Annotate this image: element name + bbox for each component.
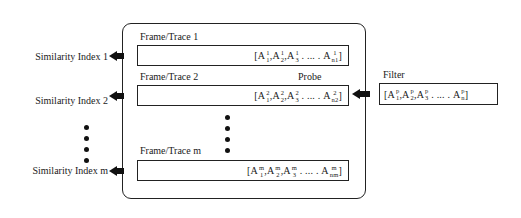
dots: . ... . — [300, 165, 319, 176]
term-a: A — [388, 89, 395, 100]
filter-sequence: [ Ap1 , Ap2 , Ap3 . ... . Apn ] — [384, 84, 468, 104]
bracket-close: ] — [338, 90, 342, 101]
sub: 3 — [425, 94, 428, 101]
sequence-2: [ A21 , A22 , A23 . ... . A2n2 ] — [254, 86, 342, 105]
similarity-index-2: Similarity Index 2 — [18, 95, 108, 106]
sup: 2 — [332, 89, 339, 96]
similarity-ellipsis — [84, 125, 89, 163]
probe-label: Probe — [298, 71, 321, 82]
dot-icon — [225, 137, 230, 142]
dots: . ... . — [431, 89, 450, 100]
similarity-index-m: Similarity Index m — [18, 165, 108, 176]
dots: . ... . — [302, 90, 321, 101]
dot-icon — [84, 158, 89, 163]
dot-icon — [225, 126, 230, 131]
frame-label-1: Frame/Trace 1 — [140, 31, 198, 42]
sub: 3 — [295, 96, 298, 103]
dot-icon — [84, 147, 89, 152]
sub: 3 — [292, 171, 297, 178]
frame-row-1: [ A11 , A12 , A13 . ... . A1n1 ] — [137, 45, 349, 66]
sup: m — [330, 164, 339, 171]
dots: . ... . — [302, 50, 321, 61]
bracket-close: ] — [338, 165, 342, 176]
term-a: A — [323, 50, 330, 61]
similarity-index-1: Similarity Index 1 — [18, 51, 108, 62]
arrow-left-icon — [109, 166, 124, 176]
dot-icon — [84, 136, 89, 141]
term-a: A — [272, 50, 279, 61]
frame-label-m: Frame/Trace m — [140, 145, 201, 156]
term-a: A — [267, 165, 274, 176]
term-a: A — [402, 89, 409, 100]
term-a: A — [272, 90, 279, 101]
sub: 3 — [295, 56, 298, 63]
filter-label: Filter — [383, 69, 405, 80]
arrow-left-icon — [109, 91, 124, 101]
dot-icon — [225, 115, 230, 120]
arrow-left-icon — [109, 51, 124, 61]
sub: nm — [330, 171, 339, 178]
term-a: A — [251, 165, 258, 176]
sequence-1: [ A11 , A12 , A13 . ... . A1n1 ] — [254, 46, 342, 65]
sub: n2 — [332, 96, 339, 103]
dot-icon — [84, 125, 89, 130]
bracket-close: ] — [338, 50, 342, 61]
term-a: A — [287, 90, 294, 101]
term-a: A — [258, 50, 265, 61]
frame-row-2: [ A21 , A22 , A23 . ... . A2n2 ] — [137, 85, 349, 106]
term-a: A — [417, 89, 424, 100]
sequence-m: [ Am1 , Am2 , Am3 . ... . Amnm ] — [247, 161, 342, 180]
sup: 1 — [332, 49, 339, 56]
bracket-close: ] — [465, 89, 469, 100]
frame-row-m: [ Am1 , Am2 , Am3 . ... . Amnm ] — [137, 160, 349, 181]
term-a: A — [283, 165, 290, 176]
dot-icon — [225, 148, 230, 153]
sub: n1 — [332, 56, 339, 63]
term-a: A — [323, 90, 330, 101]
sup: p — [425, 87, 428, 94]
sup: 2 — [295, 89, 298, 96]
filter-arrow-left-icon — [352, 89, 370, 99]
sup: m — [292, 164, 297, 171]
filter-box: [ Ap1 , Ap2 , Ap3 . ... . Apn ] — [379, 83, 498, 105]
frames-ellipsis — [225, 115, 230, 153]
term-a: A — [321, 165, 328, 176]
term-a: A — [287, 50, 294, 61]
term-a: A — [453, 89, 460, 100]
sup: 1 — [295, 49, 298, 56]
frame-label-2: Frame/Trace 2 — [140, 71, 198, 82]
term-a: A — [258, 90, 265, 101]
